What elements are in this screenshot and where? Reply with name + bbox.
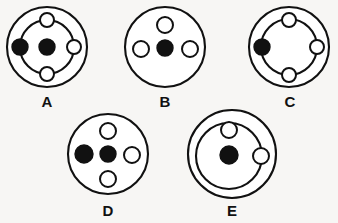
open-circle-right-a	[67, 40, 81, 54]
figure-label-c: C	[285, 93, 296, 110]
figure-label-a: A	[42, 93, 53, 110]
filled-dot-left-c	[254, 39, 270, 55]
figure-label-b: B	[160, 93, 171, 110]
center-dot-b	[157, 40, 173, 56]
center-dot-e	[220, 146, 238, 164]
open-circle-top-c	[282, 13, 296, 27]
open-circle-right-b	[182, 41, 198, 57]
open-circle-top-a	[40, 13, 54, 27]
filled-dot-left-a	[12, 39, 28, 55]
open-circle-bottom-a	[40, 67, 54, 81]
open-circle-bottom-c	[282, 68, 296, 82]
figure-label-e: E	[227, 202, 237, 219]
center-dot-d	[100, 146, 116, 162]
open-circle-top-d	[100, 123, 116, 139]
open-circle-right-c	[310, 40, 324, 54]
open-circle-left-b	[133, 41, 149, 57]
open-circle-right-e	[253, 148, 269, 164]
open-circle-right-d	[124, 147, 140, 163]
filled-dot-left-d	[75, 145, 93, 163]
figure-label-d: D	[103, 202, 114, 219]
center-dot-a	[39, 39, 55, 55]
figures-canvas: ABCDE	[0, 0, 338, 223]
open-circle-bottom-d	[100, 171, 116, 187]
open-circle-top-b	[157, 17, 173, 33]
open-circle-top-e	[221, 122, 237, 138]
figure-sheet: ABCDE	[0, 0, 338, 223]
